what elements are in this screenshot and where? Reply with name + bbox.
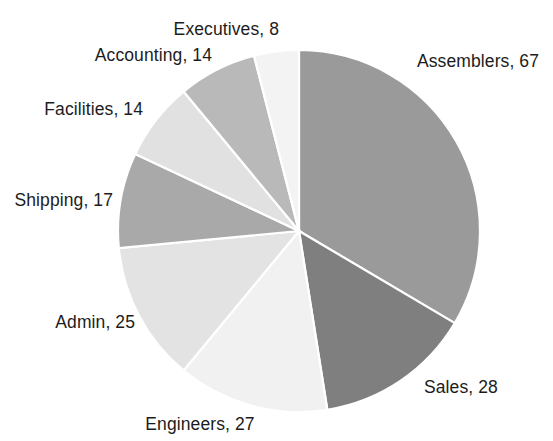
pie-label-executives: Executives, 8	[174, 21, 279, 39]
pie-label-sales: Sales, 28	[424, 379, 498, 397]
pie-chart-figure: Assemblers, 67Sales, 28Engineers, 27Admi…	[0, 0, 553, 441]
pie-slice-group	[118, 50, 480, 412]
pie-label-assemblers: Assemblers, 67	[417, 53, 539, 71]
pie-label-accounting: Accounting, 14	[95, 47, 212, 65]
pie-label-shipping: Shipping, 17	[14, 192, 113, 210]
pie-label-engineers: Engineers, 27	[145, 416, 254, 434]
pie-label-admin: Admin, 25	[55, 314, 135, 332]
pie-label-facilities: Facilities, 14	[44, 101, 143, 119]
